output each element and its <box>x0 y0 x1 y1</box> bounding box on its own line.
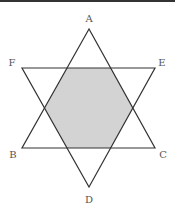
label-d: D <box>85 194 93 205</box>
shaded-hexagon <box>45 68 133 148</box>
label-b: B <box>9 149 16 160</box>
label-e: E <box>158 57 165 68</box>
hexagram-diagram: A E F B C D <box>0 0 179 216</box>
label-f: F <box>9 57 16 68</box>
label-a: A <box>84 13 93 24</box>
label-c: C <box>159 149 167 160</box>
